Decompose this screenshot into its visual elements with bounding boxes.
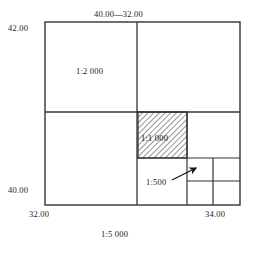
pointer-arrow-1-500: [172, 168, 196, 180]
figure-caption: 1:5 000: [101, 230, 128, 239]
axis-label-x-left: 32.00: [29, 210, 49, 219]
axis-label-top-left: 42.00: [8, 24, 28, 33]
axis-label-bottom-left: 40.00: [8, 186, 28, 195]
diagram-canvas: 40.00—32.00 42.00 40.00 32.00 34.00 1:2 …: [0, 0, 258, 254]
region-label-1-2000: 1:2 000: [76, 67, 103, 76]
region-label-1-1000: 1:1 000: [141, 134, 168, 143]
axis-label-x-right: 34.00: [205, 210, 225, 219]
axis-label-top: 40.00—32.00: [94, 10, 143, 19]
region-label-1-500: 1:500: [146, 178, 166, 187]
